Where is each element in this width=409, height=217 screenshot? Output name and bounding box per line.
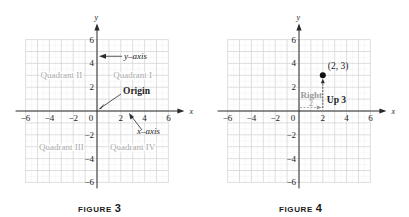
caption-word: FIGURE [78,205,112,214]
caption-number: 4 [316,202,322,214]
quadrant-label: Quadrant IV [110,142,156,152]
y-axis-label: y [94,13,99,22]
data-points: (2, 3) [320,61,349,78]
x-axis-label: x [188,107,193,116]
data-point-label: (2, 3) [328,61,349,72]
quadrant-label: Quadrant III [39,142,84,152]
x-tick-label: 0 [89,113,94,123]
x-axis-arrow-icon [177,108,184,113]
quadrant-label: Quadrant I [113,70,152,80]
x-axis-arrow-icon [379,108,386,113]
y-tick-label: 6 [90,35,95,45]
figure-4-coordinate-plane: xy−6−4−20246642−2−4−6Right2Up 3(2, 3) [218,13,396,189]
y-tick-label: 4 [90,58,95,68]
caption-word: FIGURE [279,205,313,214]
x-tick-label: 6 [166,113,171,123]
figure-4-caption: FIGURE4 [279,202,322,214]
right-move-value: 2 [309,99,313,108]
x-tick-label: −4 [45,113,55,123]
y-tick-label: 2 [292,82,297,92]
axes: xy [16,13,194,189]
x-tick-label: 4 [142,113,147,123]
x-tick-label: −2 [270,113,280,123]
right-move-arrow-icon [317,106,322,110]
data-point-marker [320,72,326,78]
y-tick-label: −6 [286,177,296,187]
figure-3-coordinate-plane: xy−6−4−20246642−2−4−6Quadrant IIQuadrant… [16,13,194,189]
up-move-label: Up 3 [327,95,347,105]
origin-annotation: Origin [123,86,151,96]
y-tick-label: −6 [84,177,94,187]
y-axis-pointer-arrow-icon [99,54,106,59]
axes: xy [218,13,396,189]
x-tick-label: 6 [368,113,373,123]
x-axis-annotation: x–axis [136,126,160,136]
caption-number: 3 [115,202,121,214]
y-tick-label: −2 [84,130,94,140]
x-tick-label: 2 [119,113,124,123]
y-tick-label: 4 [292,58,297,68]
figure-3-caption: FIGURE3 [78,202,121,214]
y-axis-annotation: y–axis [123,51,147,61]
y-tick-label: −4 [84,154,94,164]
y-tick-label: −4 [286,154,296,164]
origin-pointer-arrow-icon [99,104,105,110]
x-axis-label: x [390,107,395,116]
x-tick-label: 4 [344,113,349,123]
x-tick-label: −6 [21,113,31,123]
x-tick-label: 2 [321,113,326,123]
y-axis-arrow-icon [94,24,99,31]
y-tick-label: 6 [292,35,297,45]
x-tick-label: −2 [68,113,78,123]
quadrant-label: Quadrant II [40,70,82,80]
y-tick-label: 2 [90,82,95,92]
y-tick-label: −2 [286,130,296,140]
x-tick-label: −4 [247,113,257,123]
x-tick-label: 0 [291,113,296,123]
y-axis-label: y [296,13,301,22]
figures-canvas: xy−6−4−20246642−2−4−6Quadrant IIQuadrant… [0,0,409,217]
y-axis-arrow-icon [296,24,301,31]
x-tick-label: −6 [223,113,233,123]
